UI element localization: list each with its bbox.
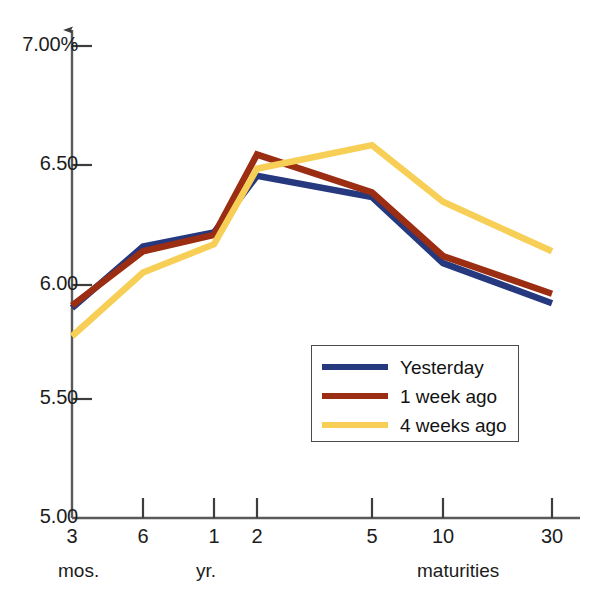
x-tick-label-2yr: 2 bbox=[237, 525, 277, 548]
legend-label-1-week-ago: 1 week ago bbox=[400, 387, 497, 406]
x-tick-label-6mos: 6 bbox=[123, 525, 163, 548]
y-tick-label-6-50: 6.50 bbox=[0, 152, 78, 175]
series-line-1-week-ago bbox=[72, 155, 552, 306]
x-group-label-months: mos. bbox=[58, 560, 99, 582]
y-tick-label-7-00: 7.00% bbox=[0, 33, 78, 56]
x-tick-label-5yr: 5 bbox=[352, 525, 392, 548]
x-tick-label-10yr: 10 bbox=[423, 525, 463, 548]
y-tick-marks bbox=[72, 46, 92, 399]
legend: Yesterday 1 week ago 4 weeks ago bbox=[311, 345, 519, 442]
legend-swatch-yesterday bbox=[322, 364, 388, 370]
data-series-layer bbox=[72, 145, 552, 336]
legend-swatch-1-week-ago bbox=[322, 393, 388, 399]
footer-ghost-text bbox=[0, 583, 600, 596]
legend-item-yesterday[interactable]: Yesterday bbox=[322, 354, 484, 380]
x-tick-label-30yr: 30 bbox=[532, 525, 572, 548]
series-line-yesterday bbox=[72, 176, 552, 308]
legend-label-4-weeks-ago: 4 weeks ago bbox=[400, 416, 507, 435]
legend-item-1-week-ago[interactable]: 1 week ago bbox=[322, 383, 497, 409]
x-axis-title-maturities: maturities bbox=[417, 560, 499, 582]
y-tick-label-6-00: 6.00 bbox=[0, 272, 78, 295]
legend-label-yesterday: Yesterday bbox=[400, 358, 484, 377]
x-tick-label-1yr: 1 bbox=[194, 525, 234, 548]
x-tick-marks bbox=[143, 498, 552, 518]
y-tick-label-5-50: 5.50 bbox=[0, 386, 78, 409]
x-group-label-years: yr. bbox=[196, 560, 216, 582]
x-tick-label-3mos: 3 bbox=[52, 525, 92, 548]
legend-item-4-weeks-ago[interactable]: 4 weeks ago bbox=[322, 412, 507, 438]
legend-swatch-4-weeks-ago bbox=[322, 422, 388, 428]
chart-plot-area bbox=[0, 0, 600, 596]
yield-curve-chart: 7.00% 6.50 6.00 5.50 5.00 3 6 1 2 5 10 3… bbox=[0, 0, 600, 596]
